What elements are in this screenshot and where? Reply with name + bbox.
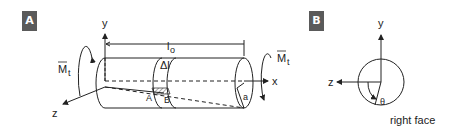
torque-left-label: M: [58, 63, 67, 75]
length-subscript: o: [170, 45, 175, 55]
torsion-diagram: y x z l o Δl M t M t A B a y z θ right f…: [0, 0, 456, 138]
torque-right-subscript: t: [287, 57, 290, 67]
panel-b-cross-section: [337, 35, 404, 105]
y-axis-label: y: [102, 17, 108, 29]
delta-label: Δl: [160, 59, 170, 71]
panel-a-cylinder: [96, 58, 253, 108]
radius-label: a: [243, 92, 248, 102]
theta-label: θ: [380, 97, 385, 107]
b-z-axis-label: z: [328, 76, 334, 88]
point-a-label: A: [146, 93, 152, 103]
torque-left-subscript: t: [68, 68, 71, 78]
z-axis-label: z: [52, 107, 58, 119]
right-face-caption: right face: [390, 114, 435, 126]
point-b-label: B: [164, 95, 170, 105]
x-axis-label: x: [272, 75, 278, 87]
b-y-axis-label: y: [378, 17, 384, 29]
torque-right-label: M: [277, 52, 286, 64]
